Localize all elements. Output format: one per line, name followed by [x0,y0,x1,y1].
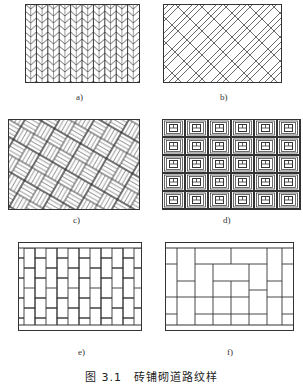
panel-b-herringbone-diagonal [163,4,282,83]
panel-e-running-bond [18,242,142,331]
panel-f-label: f) [227,347,233,357]
panel-d-concentric-squares [162,119,301,210]
panel-a-herringbone-columns [25,4,140,83]
panel-c-basketweave [8,119,140,210]
panel-a-label: a) [76,92,83,102]
panel-c-label: c) [73,215,80,225]
panel-d-label: d) [223,215,231,225]
panel-b-label: b) [220,92,228,102]
panel-e-label: e) [78,347,85,357]
figure-caption: 图 3.1 砖铺砌道路纹样 [0,368,303,384]
panel-f-pinwheel [165,242,294,331]
